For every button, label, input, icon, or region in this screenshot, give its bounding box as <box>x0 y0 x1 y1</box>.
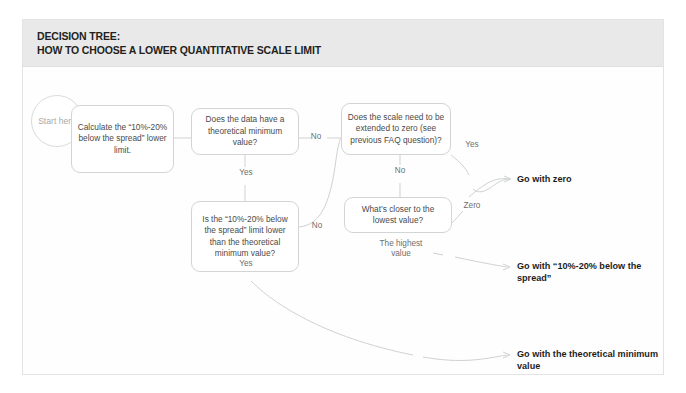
edge-label-limit-lower-no: No <box>307 221 327 231</box>
node-theoretical-min: Does the data have a theoretical minimum… <box>191 108 299 155</box>
node-closer-lowest: What’s closer to the lowest value? <box>344 197 452 233</box>
wire-limit-yes-b <box>423 355 507 361</box>
wire-extend-yes-c <box>473 179 509 192</box>
edge-label-theoretical-min-yes: Yes <box>235 168 257 178</box>
arrowhead-go-spread <box>503 264 510 270</box>
decision-tree-figure: DECISION TREE: HOW TO CHOOSE A LOWER QUA… <box>22 19 664 375</box>
node-calculate: Calculate the “10%-20% below the spread”… <box>71 105 174 173</box>
wire-highest-b <box>455 257 507 267</box>
arrowhead-go-zero <box>504 176 511 182</box>
wire-limit-yes-a <box>251 281 413 355</box>
figure-header: DECISION TREE: HOW TO CHOOSE A LOWER QUA… <box>23 20 663 67</box>
outcome-go-spread: Go with “10%-20% below the spread” <box>517 260 657 284</box>
wire-limit-lower-no <box>299 138 341 227</box>
diagram-canvas: Start here Calculate the “10%-20% below … <box>23 67 663 374</box>
node-calculate-label: Calculate the “10%-20% below the spread”… <box>76 122 169 157</box>
edge-label-closer-lowest-zero: Zero <box>459 201 485 211</box>
arrowhead-go-theoretical <box>503 352 510 358</box>
edge-label-limit-lower-yes: Yes <box>235 259 257 269</box>
edge-label-extend-to-zero-no: No <box>390 166 410 176</box>
wire-highest-a <box>433 253 443 255</box>
node-limit-lower-label: Is the “10%-20% below the spread” limit … <box>196 214 294 260</box>
wire-extend-yes-a <box>451 155 469 175</box>
wire-zero-b <box>469 179 509 197</box>
page-title-line-2: HOW TO CHOOSE A LOWER QUANTITATIVE SCALE… <box>37 44 321 56</box>
page-title-line-1: DECISION TREE: <box>37 30 120 42</box>
node-extend-to-zero-label: Does the scale need to be extended to ze… <box>346 112 446 147</box>
node-extend-to-zero: Does the scale need to be extended to ze… <box>341 103 451 155</box>
node-theoretical-min-label: Does the data have a theoretical minimum… <box>196 114 294 149</box>
edge-label-extend-to-zero-yes: Yes <box>461 140 483 150</box>
outcome-go-theoretical: Go with the theoretical minimum value <box>517 348 663 372</box>
node-closer-lowest-label: What’s closer to the lowest value? <box>349 204 447 227</box>
outcome-go-zero: Go with zero <box>517 173 657 185</box>
edge-label-closer-lowest-highest: The highest value <box>371 239 431 259</box>
edge-label-theoretical-min-no: No <box>306 132 326 142</box>
